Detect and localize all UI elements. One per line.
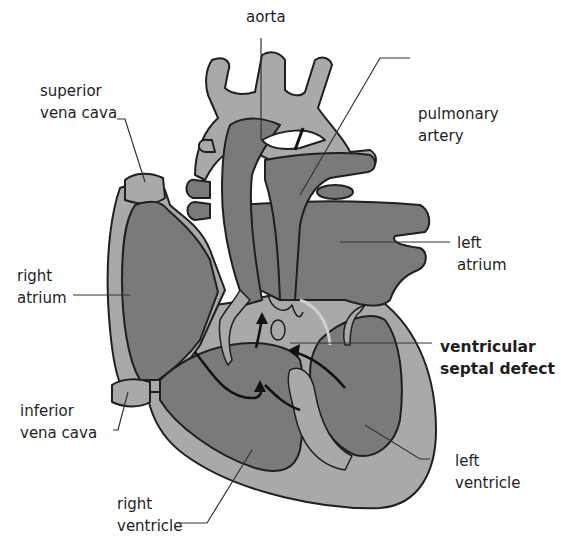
label-left-atrium: left atrium — [457, 232, 507, 276]
label-right-atrium: right atrium — [17, 265, 67, 309]
label-pulmonary-artery: pulmonary artery — [418, 103, 499, 147]
label-inferior-vena-cava: inferior vena cava — [20, 400, 97, 444]
label-right-ventricle: right ventricle — [117, 493, 182, 537]
label-superior-vena-cava: superior vena cava — [40, 80, 117, 124]
label-ventricular-septal-defect: ventricular septal defect — [440, 336, 555, 380]
valve-droplet — [271, 320, 285, 340]
label-aorta: aorta — [246, 6, 286, 28]
label-left-ventricle: left ventricle — [455, 450, 520, 494]
vessel-stub-pulm-left-2 — [188, 202, 211, 220]
vessel-stub-pulm-left — [186, 180, 210, 198]
superior-vena-cava-shape — [125, 174, 165, 204]
left-atrium-shape — [240, 201, 429, 306]
inferior-vena-cava-shape — [112, 379, 150, 406]
leader-svc — [117, 119, 145, 182]
heart-diagram: aorta superior vena cava pulmonary arter… — [0, 0, 561, 548]
vessel-stub-upper — [199, 140, 215, 152]
pulmonary-branch-cut — [317, 185, 353, 199]
